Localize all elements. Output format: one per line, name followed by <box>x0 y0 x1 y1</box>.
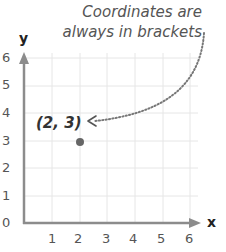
x-tick-label: 3 <box>102 231 110 246</box>
grid-lines <box>24 53 198 223</box>
y-tick-label: 1 <box>2 188 10 203</box>
annotation-line-2: always in brackets <box>63 22 202 42</box>
data-point <box>76 138 84 146</box>
y-tick-label: 4 <box>2 105 10 120</box>
y-tick-label: 3 <box>2 133 10 148</box>
annotation-text: Coordinates are always in brackets <box>63 2 202 42</box>
x-axis-label: x <box>207 214 216 230</box>
coordinate-chart: Coordinates are always in brackets (2, 3… <box>0 0 226 252</box>
y-tick-label: 5 <box>2 77 10 92</box>
x-tick-label: 1 <box>48 231 56 246</box>
x-tick-label: 6 <box>185 231 193 246</box>
x-tick-label: 5 <box>157 231 165 246</box>
x-tick-label: 4 <box>129 231 137 246</box>
y-axis-label: y <box>19 30 28 46</box>
y-tick-label: 6 <box>2 50 10 65</box>
y-tick-label: 0 <box>2 215 10 230</box>
annotation-arrow <box>88 33 204 126</box>
point-label: (2, 3) <box>36 114 82 132</box>
x-tick-label: 2 <box>74 231 82 246</box>
y-tick-label: 2 <box>2 160 10 175</box>
y-axis <box>19 52 29 224</box>
x-axis-arrow-icon <box>189 218 201 228</box>
x-axis <box>23 218 201 228</box>
annotation-line-1: Coordinates are <box>63 2 202 22</box>
